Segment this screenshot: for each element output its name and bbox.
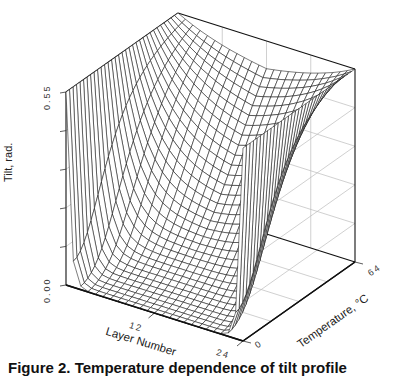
figure-caption: Figure 2. Temperature dependence of tilt…: [8, 359, 347, 376]
z-tick-top: 0.55: [42, 84, 52, 110]
z-axis-label: Tilt, rad.: [2, 143, 14, 182]
z-tick-bottom: 0.00: [42, 277, 52, 303]
